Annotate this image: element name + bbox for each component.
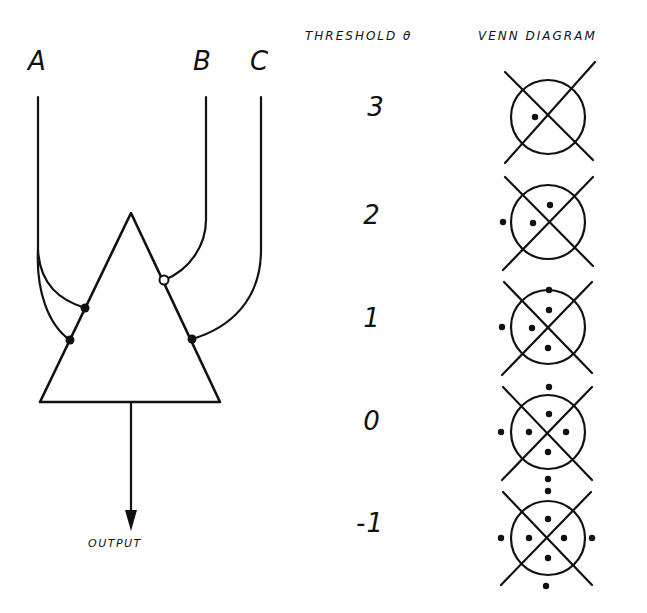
threshold-column-header: THRESHOLD θ (305, 29, 412, 43)
venn-dot (500, 219, 506, 225)
output-label: OUTPUT (88, 537, 142, 550)
venn-dot (545, 449, 551, 455)
venn-dot (529, 325, 535, 331)
threshold-logic-unit-diagram (0, 0, 647, 613)
venn-diagram-threshold-minus-1 (501, 492, 592, 585)
venn-dot (498, 535, 504, 541)
venn-diagram-threshold-2 (503, 177, 593, 270)
venn-dot (545, 476, 551, 482)
venn-dot (530, 220, 536, 226)
output-arrow-icon (125, 510, 137, 531)
input-label-c: C (250, 46, 269, 76)
venn-column-header: VENN DIAGRAM (478, 29, 597, 43)
venn-dot (547, 202, 553, 208)
venn-dot (543, 583, 549, 589)
venn-dot (546, 287, 552, 293)
venn-dot (545, 516, 551, 522)
venn-dot (545, 555, 551, 561)
venn-diagram-threshold-1 (502, 282, 592, 375)
venn-dot (561, 535, 567, 541)
synapse-excitatory-a2 (66, 336, 75, 345)
venn-dot (545, 488, 551, 494)
synapse-excitatory-c (188, 335, 197, 344)
input-label-b: B (193, 46, 212, 76)
input-a-branch-2 (38, 250, 70, 340)
venn-dot (546, 411, 552, 417)
diagram-canvas: A B C THRESHOLD θ VENN DIAGRAM 3 2 1 0 -… (0, 0, 647, 613)
input-a-branch-1 (38, 250, 85, 308)
venn-dot (526, 535, 532, 541)
input-b-line (164, 97, 206, 280)
venn-dot (498, 429, 504, 435)
threshold-value: 3 (367, 92, 385, 122)
venn-dot (526, 429, 532, 435)
venn-dot (563, 429, 569, 435)
threshold-value: 1 (363, 303, 381, 333)
threshold-value: 2 (363, 200, 381, 230)
synapse-excitatory-a1 (81, 304, 90, 313)
venn-dot (532, 114, 538, 120)
venn-dot (545, 345, 551, 351)
input-label-a: A (28, 46, 47, 76)
venn-diagram-threshold-3 (505, 62, 595, 163)
venn-diagram-threshold-0 (502, 387, 592, 480)
venn-dot (546, 384, 552, 390)
input-c-line (192, 97, 261, 339)
synapse-inhibitory-b (160, 276, 169, 285)
neuron-triangle (40, 213, 220, 402)
threshold-value: -1 (356, 508, 384, 538)
venn-dot (499, 324, 505, 330)
venn-dot (589, 535, 595, 541)
threshold-value: 0 (363, 406, 381, 436)
venn-dot (546, 307, 552, 313)
